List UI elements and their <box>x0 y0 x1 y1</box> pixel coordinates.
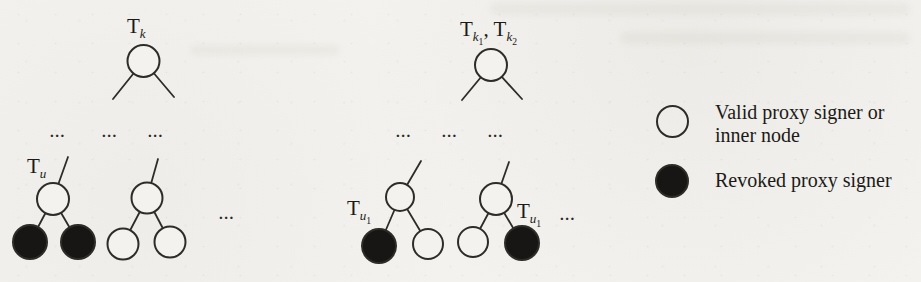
legend-revoked-label: Revoked proxy signer <box>715 169 892 192</box>
upper-right-tree-root-node-valid <box>475 49 507 81</box>
lower-right-tree2-root-node-valid <box>480 183 512 215</box>
ellipsis-mid-right-2: ... <box>442 125 458 140</box>
label-tk: Tk <box>127 15 146 38</box>
lower-right-tree1-right-node-valid <box>413 229 443 259</box>
ellipsis-mid-left-2: ... <box>102 125 118 140</box>
lower-right-tree2-left-node-valid <box>458 227 488 257</box>
ellipsis-mid-right-1: ... <box>396 125 412 140</box>
upper-left-tree-root-node-valid <box>128 45 160 77</box>
ellipsis-bottom-middle: ... <box>219 207 235 222</box>
ellipsis-mid-left-3: ... <box>148 125 164 140</box>
lower-right-tree2-right-node-revoked <box>505 226 539 260</box>
lower-left-tree2-root-node-valid <box>132 183 163 214</box>
ellipsis-bottom-right: ... <box>560 208 576 223</box>
label-tk1-tk2: Tk1, Tk2 <box>460 18 517 42</box>
lower-left-tree1-left-node-revoked <box>13 225 47 259</box>
ellipsis-mid-right-3: ... <box>488 125 504 140</box>
legend-valid-label: Valid proxy signer or inner node <box>715 101 911 147</box>
ellipsis-mid-left-1: ... <box>50 125 66 140</box>
label-tu1-right: Tu1 <box>517 200 541 224</box>
legend-valid-node-icon <box>656 105 689 138</box>
lower-left-tree2-left-node-valid <box>108 229 139 260</box>
legend-revoked-node-icon <box>655 164 689 198</box>
label-tu: Tu <box>27 155 46 178</box>
lower-left-tree2-right-node-valid <box>155 227 186 258</box>
label-tu1-left: Tu1 <box>347 197 371 221</box>
lower-right-tree1-left-node-revoked <box>362 229 396 263</box>
scanned-figure-page: Tk Tk1, Tk2 Tu Tu1 Tu1 ... ... ... ... .… <box>0 0 921 282</box>
lower-left-tree1-right-node-revoked <box>61 225 95 259</box>
lower-left-tree1-root-node-valid <box>37 183 69 215</box>
lower-right-tree1-root-node-valid <box>386 183 414 211</box>
